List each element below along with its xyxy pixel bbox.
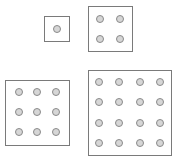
dot-icon <box>96 35 104 43</box>
dot-icon <box>95 139 103 147</box>
dot-icon <box>115 139 123 147</box>
dot-icon <box>136 78 144 86</box>
dot-icon <box>136 119 144 127</box>
dot-icon <box>95 119 103 127</box>
dot-icon <box>115 78 123 86</box>
dot-icon <box>95 78 103 86</box>
dot-icon <box>96 15 104 23</box>
dot-icon <box>156 78 164 86</box>
dot-icon <box>53 25 61 33</box>
dot-icon <box>156 119 164 127</box>
dot-icon <box>136 98 144 106</box>
dot-icon <box>115 119 123 127</box>
dot-icon <box>33 128 41 136</box>
dot-icon <box>156 139 164 147</box>
dot-icon <box>15 88 23 96</box>
dot-icon <box>52 108 60 116</box>
dot-icon <box>33 108 41 116</box>
dot-square-2x2 <box>88 6 133 52</box>
dot-icon <box>95 98 103 106</box>
dot-icon <box>15 108 23 116</box>
dot-icon <box>156 98 164 106</box>
dot-icon <box>33 88 41 96</box>
dot-icon <box>52 128 60 136</box>
dot-icon <box>15 128 23 136</box>
dot-icon <box>115 98 123 106</box>
dot-icon <box>136 139 144 147</box>
dot-icon <box>52 88 60 96</box>
dot-icon <box>116 15 124 23</box>
dot-icon <box>116 35 124 43</box>
